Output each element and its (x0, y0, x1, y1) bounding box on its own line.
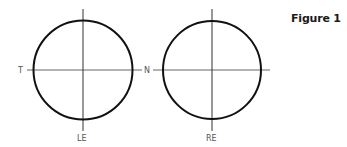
left-eye-chart: T N LE (17, 9, 150, 143)
label-temporal: T (17, 66, 23, 75)
label-right-eye: RE (206, 134, 217, 143)
label-nasal: N (144, 66, 150, 75)
right-eye-chart: RE (163, 9, 270, 143)
label-left-eye: LE (77, 134, 87, 143)
figure-title: Figure 1 (291, 12, 341, 25)
